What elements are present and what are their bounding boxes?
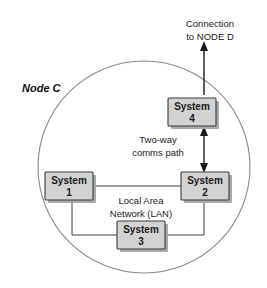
system-3-label-line2: 3 (138, 236, 144, 247)
node-c-title: Node C (22, 82, 62, 94)
system-1-label-line2: 1 (66, 187, 72, 198)
system-4-label-line2: 4 (189, 113, 195, 124)
lan-label-line1: Local Area (119, 195, 165, 206)
system-2-label-line1: System (187, 175, 223, 186)
system-3-label-line1: System (123, 224, 159, 235)
system-1-label-line1: System (51, 175, 87, 186)
comms-path-label-line1: Two-way (139, 134, 177, 145)
diagram-canvas: System 4 System 1 System 2 System 3 Node… (0, 0, 267, 288)
comms-path-label-line2: comms path (132, 147, 184, 158)
external-connection-label-line1: Connection (186, 18, 234, 29)
system-4-label-line1: System (174, 101, 210, 112)
external-connection-arrow-head (200, 41, 208, 51)
external-connection-label-line2: to NODE D (186, 31, 234, 42)
lan-label-line2: Network (LAN) (110, 208, 172, 219)
network-diagram: System 4 System 1 System 2 System 3 Node… (0, 0, 267, 288)
system-2-label-line2: 2 (202, 187, 208, 198)
